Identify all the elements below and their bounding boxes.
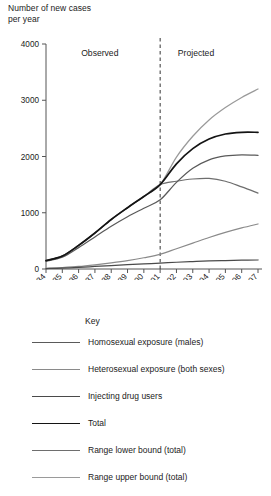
y-axis-tick-label: 0 — [34, 265, 39, 274]
legend-item-label: Homosexual exposure (males) — [88, 336, 203, 349]
legend-item: Heterosexual exposure (both sexes) — [0, 363, 271, 377]
y-axis: 01000200030004000 — [21, 40, 46, 274]
x-axis-tick-label: 1997 — [240, 272, 259, 280]
legend-item: Range lower bound (total) — [0, 444, 271, 458]
x-axis-tick-label: 1990 — [126, 272, 145, 280]
legend-item: Homosexual exposure (males) — [0, 336, 271, 350]
x-axis-tick-label: 1996 — [224, 272, 243, 280]
x-axis-tick-label: 1994 — [192, 272, 211, 280]
y-axis-tick-label: 3000 — [21, 96, 40, 105]
x-axis-tick-label: 1986 — [61, 272, 80, 280]
legend-item: Total — [0, 417, 271, 431]
legend-item: Range upper bound (total) — [0, 471, 271, 485]
series-line — [46, 260, 258, 269]
x-axis-tick-label: 1988 — [94, 272, 113, 280]
x-axis-tick-label: 1991 — [143, 272, 162, 280]
legend-title: Key — [85, 316, 100, 326]
y-axis-tick-label: 4000 — [21, 40, 40, 49]
legend: Key Homosexual exposure (males)Heterosex… — [0, 316, 271, 496]
x-axis-tick-label: 1995 — [208, 272, 227, 280]
legend-item-label: Total — [88, 417, 106, 430]
legend-item: Injecting drug users — [0, 390, 271, 404]
legend-swatch-line-icon — [32, 396, 80, 397]
legend-item-label: Injecting drug users — [88, 390, 162, 403]
x-axis-tick-label: 1993 — [175, 272, 194, 280]
x-axis-tick-label: 1992 — [159, 272, 178, 280]
line-chart: 01000200030004000 1984198519861987198819… — [0, 30, 271, 280]
series-line — [46, 89, 258, 261]
x-axis-tick-label: 1985 — [45, 272, 64, 280]
region-label: Observed — [81, 48, 118, 58]
x-axis: 1984198519861987198819891990199119921993… — [28, 269, 262, 280]
legend-item-label: Range lower bound (total) — [88, 444, 186, 457]
region-label: Projected — [178, 48, 215, 58]
x-axis-tick-label: 1989 — [110, 272, 129, 280]
series-lines — [46, 89, 258, 269]
y-axis-title-line-1: Number of new cases — [8, 3, 188, 14]
legend-item-label: Range upper bound (total) — [88, 471, 187, 484]
figure-root: Number of new cases per year 01000200030… — [0, 0, 271, 496]
y-axis-tick-label: 1000 — [21, 209, 40, 218]
region-labels: ObservedProjected — [81, 48, 214, 58]
y-axis-title-line-2: per year — [8, 14, 188, 25]
legend-swatch-line-icon — [32, 423, 80, 424]
y-axis-title: Number of new cases per year — [8, 3, 188, 24]
legend-item-label: Heterosexual exposure (both sexes) — [88, 363, 225, 376]
legend-swatch-line-icon — [32, 369, 80, 370]
y-axis-tick-label: 2000 — [21, 153, 40, 162]
legend-swatch-line-icon — [32, 450, 80, 451]
series-line — [46, 132, 258, 260]
plot-area: 01000200030004000 1984198519861987198819… — [0, 30, 271, 280]
x-axis-tick-label: 1987 — [77, 272, 96, 280]
legend-swatch-line-icon — [32, 342, 80, 343]
legend-swatch-line-icon — [32, 477, 80, 478]
